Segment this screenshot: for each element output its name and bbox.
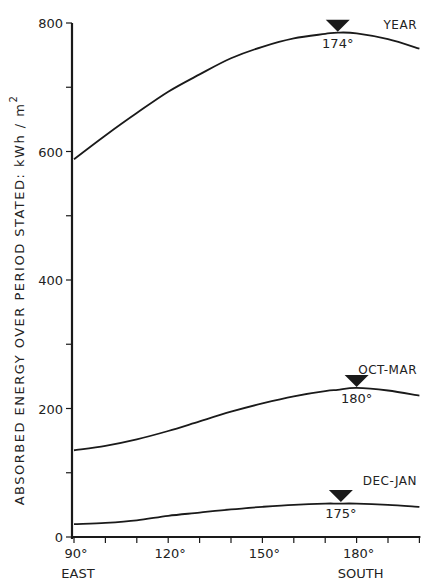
x-tick-label: 90° <box>64 546 87 561</box>
x-tick-label: 150° <box>249 546 280 561</box>
series-label-oct-mar: OCT-MAR <box>358 363 417 377</box>
series-line-dec-jan <box>74 504 419 525</box>
x-tick-sublabel: SOUTH <box>338 566 384 581</box>
y-tick-label: 400 <box>38 273 63 288</box>
y-tick-label: 600 <box>38 145 63 160</box>
axes <box>71 23 420 539</box>
x-tick-label: 120° <box>155 546 186 561</box>
x-tick-label: 180° <box>343 546 374 561</box>
peak-label-dec-jan: 175° <box>325 506 356 521</box>
peak-markers: 174°180°175° <box>322 20 372 521</box>
x-tick-sublabel: EAST <box>61 566 94 581</box>
peak-label-year: 174° <box>322 36 353 51</box>
y-axis-title-text: ABSORBED ENERGY OVER PERIOD STATED: kWh … <box>8 95 27 506</box>
peak-triangle-icon <box>326 20 350 32</box>
axis-ticks: 020040060080090°EAST120°150°180°SOUTH <box>38 16 419 581</box>
series-labels: YEAROCT-MARDEC-JAN <box>358 18 417 488</box>
y-tick-label: 800 <box>38 16 63 31</box>
series-label-year: YEAR <box>383 18 417 32</box>
peak-triangle-icon <box>345 375 369 387</box>
y-tick-label: 200 <box>38 402 63 417</box>
series-line-year <box>74 32 419 159</box>
peak-label-oct-mar: 180° <box>341 391 372 406</box>
series-lines <box>74 32 419 524</box>
peak-triangle-icon <box>329 490 353 502</box>
series-label-dec-jan: DEC-JAN <box>363 474 417 488</box>
y-axis-title: ABSORBED ENERGY OVER PERIOD STATED: kWh … <box>8 95 27 506</box>
y-tick-label: 0 <box>55 530 63 545</box>
line-chart: ABSORBED ENERGY OVER PERIOD STATED: kWh … <box>0 0 430 587</box>
